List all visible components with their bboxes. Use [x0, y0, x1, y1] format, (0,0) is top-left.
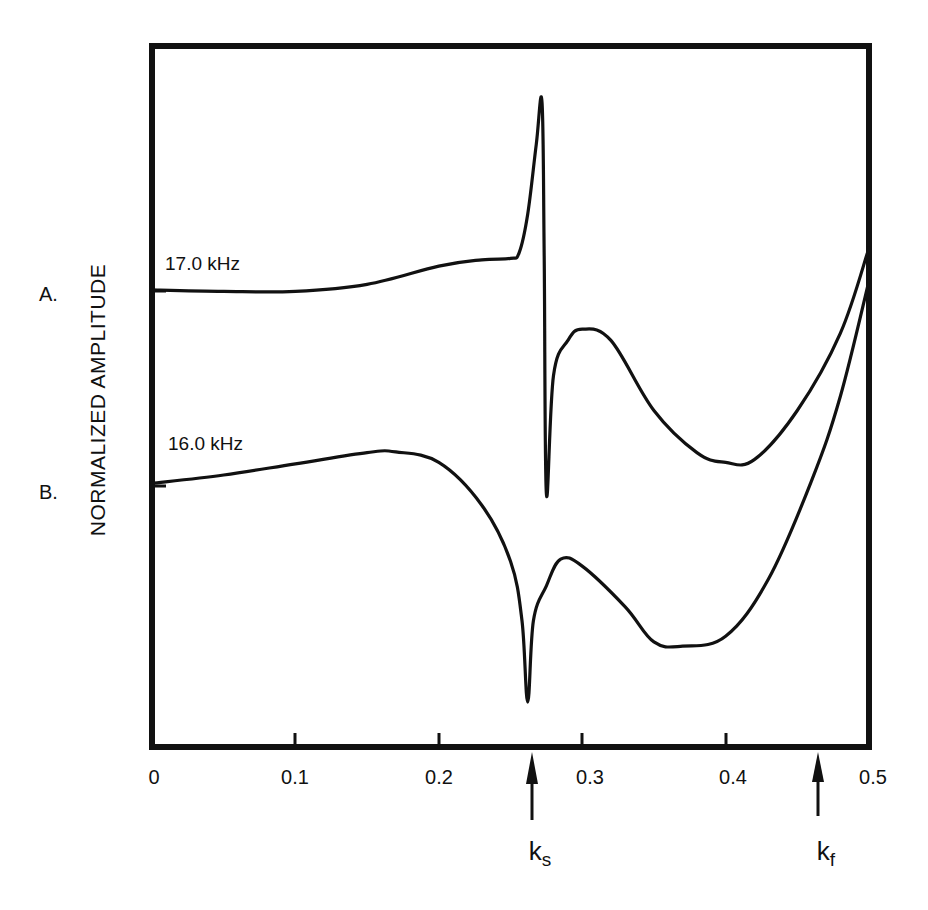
- y-axis-label: NORMALIZED AMPLITUDE: [86, 264, 110, 537]
- curve-a-label: 17.0 kHz: [165, 253, 240, 275]
- curve-b-letter: B.: [39, 481, 58, 504]
- plot-frame: [152, 46, 869, 747]
- x-tick-0: 0: [148, 766, 159, 789]
- ks-arrow-icon: [526, 752, 538, 820]
- curve-b-16khz: [152, 281, 869, 702]
- plot-area: [0, 0, 928, 910]
- kf-label: kf: [817, 836, 835, 871]
- curve-b-label: 16.0 kHz: [168, 433, 243, 455]
- kf-arrow-icon: [812, 752, 824, 816]
- x-tick-0.2: 0.2: [425, 766, 453, 789]
- curve-a-17khz: [152, 97, 869, 497]
- x-tick-0.5: 0.5: [859, 766, 887, 789]
- ks-label: ks: [529, 836, 552, 871]
- x-tick-0.4: 0.4: [719, 766, 747, 789]
- x-tick-0.3: 0.3: [576, 766, 604, 789]
- x-tick-0.1: 0.1: [281, 766, 309, 789]
- curve-a-letter: A.: [39, 283, 58, 306]
